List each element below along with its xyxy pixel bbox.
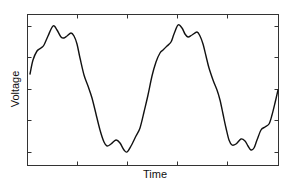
voltage-curve bbox=[30, 25, 278, 152]
x-axis-label: Time bbox=[143, 168, 167, 180]
y-axis-label: Voltage bbox=[9, 71, 21, 108]
waveform-chart: Time Voltage bbox=[0, 0, 290, 184]
